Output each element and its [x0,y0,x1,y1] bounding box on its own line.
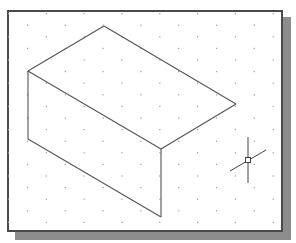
drawing-area[interactable] [0,0,296,243]
viewport-frame[interactable] [7,10,283,232]
